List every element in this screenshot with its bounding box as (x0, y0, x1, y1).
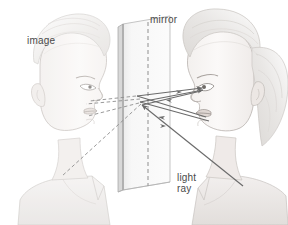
real-person (183, 9, 288, 225)
label-light-ray: light ray (177, 172, 196, 194)
diagram-canvas (0, 0, 288, 225)
label-mirror: mirror (150, 14, 177, 25)
person-pupil (202, 85, 206, 89)
person-neck (206, 136, 242, 180)
person-shoulders (192, 175, 288, 225)
image-neck (52, 138, 88, 180)
mirror-face (123, 16, 170, 190)
mirror-reflection-figure: mirror image light ray (0, 0, 288, 225)
image-shoulders (18, 176, 110, 225)
label-image: image (27, 35, 55, 46)
